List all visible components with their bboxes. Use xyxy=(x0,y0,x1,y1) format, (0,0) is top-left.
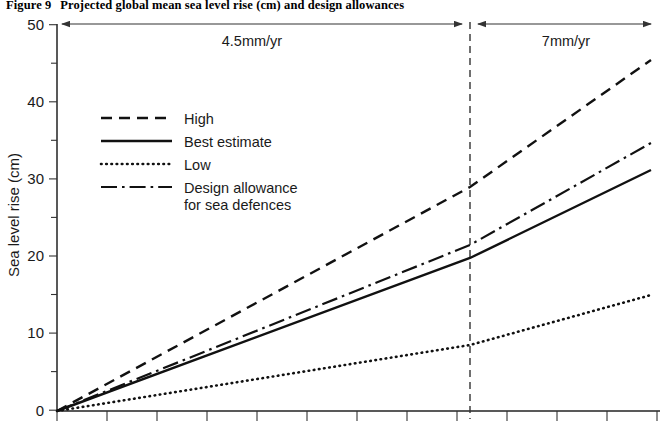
chart-legend: High Best estimate Low Design allowance … xyxy=(101,111,298,213)
y-tick-label: 10 xyxy=(27,324,44,341)
series-line-design-allowance xyxy=(57,143,651,411)
y-tick-label: 30 xyxy=(27,170,44,187)
x-axis-ticks xyxy=(57,411,657,421)
series-line-low xyxy=(57,295,651,411)
chart-svg: 4.5mm/yr 7mm/yr 50 40 30 20 10 0 xyxy=(0,0,666,422)
legend-label-high: High xyxy=(184,111,214,127)
y-tick-label: 50 xyxy=(27,16,44,33)
rate-label-left: 4.5mm/yr xyxy=(222,33,283,49)
legend-label-low: Low xyxy=(184,157,211,173)
rate-label-right: 7mm/yr xyxy=(542,33,591,49)
y-axis-title: Sea level rise (cm) xyxy=(5,153,22,277)
figure-container: Figure 9Projected global mean sea level … xyxy=(0,0,666,422)
y-axis-ticks xyxy=(49,25,57,411)
axes xyxy=(57,24,660,411)
y-tick-label: 40 xyxy=(27,93,44,110)
legend-label-design-allowance-line2: for sea defences xyxy=(184,197,291,213)
legend-label-best-estimate: Best estimate xyxy=(184,134,272,150)
y-tick-label: 20 xyxy=(27,247,44,264)
y-tick-label: 0 xyxy=(36,402,44,419)
legend-label-design-allowance: Design allowance xyxy=(184,180,298,196)
series-line-high xyxy=(57,60,651,411)
